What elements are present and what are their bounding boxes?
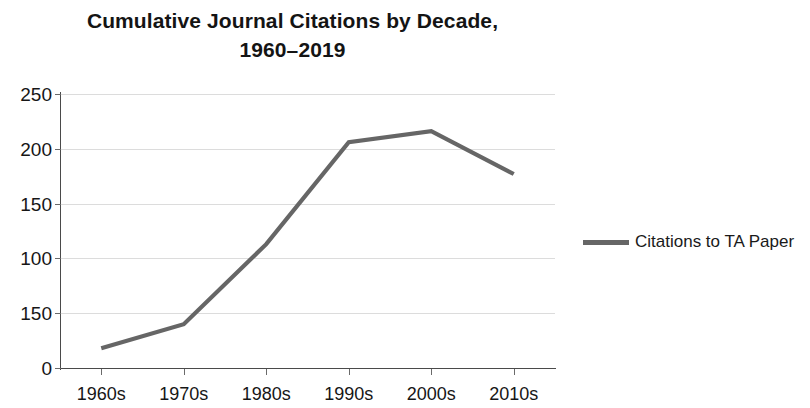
legend-label-citations-to-ta-paper: Citations to TA Paper [635, 232, 794, 252]
series-polyline [101, 131, 514, 348]
chart-figure: Cumulative Journal Citations by Decade, … [0, 0, 810, 408]
chart-legend: Citations to TA Paper [583, 232, 794, 252]
series-line-citations-to-ta-paper [0, 0, 810, 408]
legend-swatch-citations-to-ta-paper [583, 240, 629, 245]
